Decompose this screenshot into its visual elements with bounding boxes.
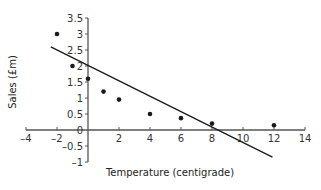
data-point	[148, 112, 153, 117]
data-point	[86, 77, 91, 82]
x-tick-label: 12	[268, 133, 281, 144]
x-tick-label: –2	[51, 133, 62, 144]
data-point	[179, 116, 184, 121]
scatter-chart: –4–224681012140 3.532.521.510.5–0.5–1 Te…	[0, 0, 321, 190]
x-tick-label: 4	[147, 133, 153, 144]
x-tick-label: 2	[116, 133, 122, 144]
y-tick-label: –0.5	[62, 141, 83, 152]
data-point	[70, 64, 75, 69]
y-axis-ticks: 3.532.521.510.5–0.5–1	[62, 13, 88, 168]
trend-line	[51, 47, 273, 157]
data-point	[101, 89, 106, 94]
origin-label: 0	[77, 125, 83, 136]
x-tick-label: 8	[209, 133, 215, 144]
data-point	[55, 32, 60, 37]
x-axis-label: Temperature (centigrade)	[105, 167, 234, 178]
y-tick-label: 1	[77, 93, 83, 104]
data-point	[272, 123, 277, 128]
data-point	[117, 97, 122, 102]
y-tick-label: 3.5	[67, 13, 83, 24]
y-axis-label: Sales (£m)	[7, 55, 18, 109]
x-tick-label: 14	[299, 133, 312, 144]
x-tick-label: –4	[20, 133, 31, 144]
y-tick-label: 3	[77, 29, 83, 40]
y-tick-label: 2.5	[67, 45, 83, 56]
y-tick-label: 0.5	[67, 109, 83, 120]
y-tick-label: –1	[72, 157, 83, 168]
x-tick-label: 6	[178, 133, 184, 144]
data-point	[210, 121, 215, 126]
y-tick-label: 1.5	[67, 77, 83, 88]
best-fit-line	[51, 47, 273, 157]
